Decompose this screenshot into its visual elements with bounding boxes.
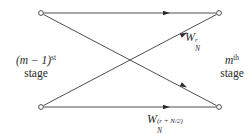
right-stage-index: m bbox=[225, 54, 233, 66]
twiddle-factor-bottom: W(r + N/2)N bbox=[147, 113, 157, 125]
twiddle-bottom-subscript: N bbox=[157, 127, 162, 134]
node-left-bottom bbox=[39, 105, 44, 110]
right-stage-label: mth stage bbox=[212, 51, 252, 80]
node-right-bottom bbox=[217, 105, 222, 110]
arrow-icon bbox=[163, 11, 170, 15]
left-stage-label: (m − 1)st stage bbox=[11, 51, 61, 80]
left-stage-suffix: st bbox=[51, 53, 56, 62]
twiddle-factor-top: WrN bbox=[185, 31, 195, 43]
right-stage-word: stage bbox=[212, 67, 252, 80]
left-stage-index: (m − 1) bbox=[16, 54, 51, 66]
twiddle-bottom-exponent: (r + N/2) bbox=[157, 118, 183, 125]
twiddle-bottom-base: W bbox=[147, 112, 157, 126]
node-right-top bbox=[217, 11, 222, 16]
twiddle-top-subscript: N bbox=[195, 45, 200, 53]
twiddle-top-base: W bbox=[185, 30, 195, 44]
left-stage-word: stage bbox=[11, 67, 61, 80]
right-stage-suffix: th bbox=[233, 53, 239, 62]
node-left-top bbox=[39, 11, 44, 16]
arrow-icon bbox=[163, 105, 170, 109]
butterfly-diagram: (m − 1)st stage mth stage WrN W(r + N/2)… bbox=[0, 0, 252, 134]
twiddle-top-exponent: r bbox=[195, 37, 198, 44]
